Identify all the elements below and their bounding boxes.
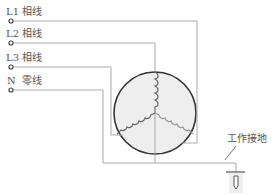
label-n: N 零线 bbox=[7, 76, 42, 86]
label-ground: 工作接地 bbox=[227, 134, 267, 144]
ground-icon bbox=[226, 172, 245, 193]
label-l1: L1 相线 bbox=[6, 7, 42, 17]
ground-leader bbox=[225, 146, 236, 160]
terminal-n bbox=[9, 88, 13, 92]
label-l3: L3 相线 bbox=[6, 53, 42, 63]
terminal-l2 bbox=[9, 41, 13, 45]
terminal-l3 bbox=[9, 65, 13, 69]
terminal-l1 bbox=[9, 19, 13, 23]
label-l2: L2 相线 bbox=[6, 29, 42, 39]
